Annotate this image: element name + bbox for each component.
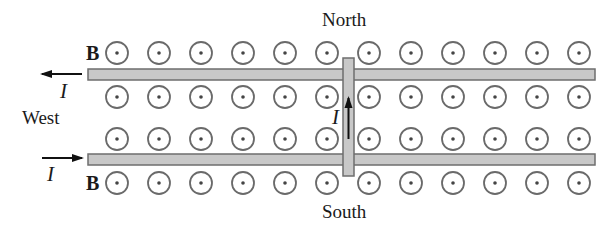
field-out-of-page-icon [106, 42, 128, 64]
field-out-of-page-icon [568, 172, 590, 194]
field-out-of-page-icon [442, 86, 464, 108]
field-out-of-page-icon [274, 42, 296, 64]
field-out-of-page-icon [484, 172, 506, 194]
field-out-of-page-icon [316, 42, 338, 64]
field-out-of-page-icon [400, 128, 422, 150]
field-out-of-page-icon [358, 128, 380, 150]
field-out-of-page-icon [526, 42, 548, 64]
field-out-of-page-icon [232, 128, 254, 150]
field-out-of-page-icon [400, 42, 422, 64]
field-out-of-page-icon [274, 172, 296, 194]
field-out-of-page-icon [274, 128, 296, 150]
field-out-of-page-icon [358, 86, 380, 108]
current-label-bottom: I [47, 164, 54, 185]
field-out-of-page-icon [400, 86, 422, 108]
field-out-of-page-icon [232, 172, 254, 194]
rails [88, 69, 595, 165]
current-label-top: I [60, 81, 67, 102]
field-out-of-page-icon [190, 42, 212, 64]
field-out-of-page-icon [484, 42, 506, 64]
field-out-of-page-icon [484, 86, 506, 108]
field-out-of-page-icon [442, 172, 464, 194]
field-out-of-page-icon [190, 128, 212, 150]
field-out-of-page-icon [274, 86, 296, 108]
field-out-of-page-icon [232, 42, 254, 64]
west-label: West [22, 108, 60, 127]
field-out-of-page-icon [358, 42, 380, 64]
field-out-of-page-icon [190, 172, 212, 194]
field-out-of-page-icon [568, 128, 590, 150]
field-out-of-page-icon [106, 86, 128, 108]
field-out-of-page-icon [526, 172, 548, 194]
field-out-of-page-icon [400, 172, 422, 194]
field-label-top: B [86, 43, 99, 63]
field-out-of-page-icon [148, 172, 170, 194]
field-out-of-page-icon [442, 42, 464, 64]
field-out-of-page-icon [232, 86, 254, 108]
field-out-of-page-icon [442, 128, 464, 150]
circuit-diagram [0, 0, 616, 234]
current-arrow-east-icon [42, 154, 84, 162]
field-out-of-page-icon [316, 172, 338, 194]
field-out-of-page-icon [526, 86, 548, 108]
current-arrow-west-icon [40, 70, 82, 78]
field-label-bottom: B [86, 173, 99, 193]
field-out-of-page-icon [568, 42, 590, 64]
field-out-of-page-icon [106, 172, 128, 194]
field-out-of-page-icon [106, 128, 128, 150]
field-out-of-page-icon [484, 128, 506, 150]
north-label: North [322, 10, 366, 29]
field-out-of-page-icon [148, 42, 170, 64]
bottom-rail [88, 154, 595, 165]
field-out-of-page-icon [190, 86, 212, 108]
field-out-of-page-icon [148, 86, 170, 108]
south-label: South [322, 202, 366, 221]
top-rail [88, 69, 595, 80]
field-out-of-page-icon [358, 172, 380, 194]
current-label-bar: I [332, 107, 339, 128]
field-out-of-page-icon [526, 128, 548, 150]
field-out-of-page-icon [148, 128, 170, 150]
field-out-of-page-icon [568, 86, 590, 108]
field-out-of-page-icon [316, 128, 338, 150]
